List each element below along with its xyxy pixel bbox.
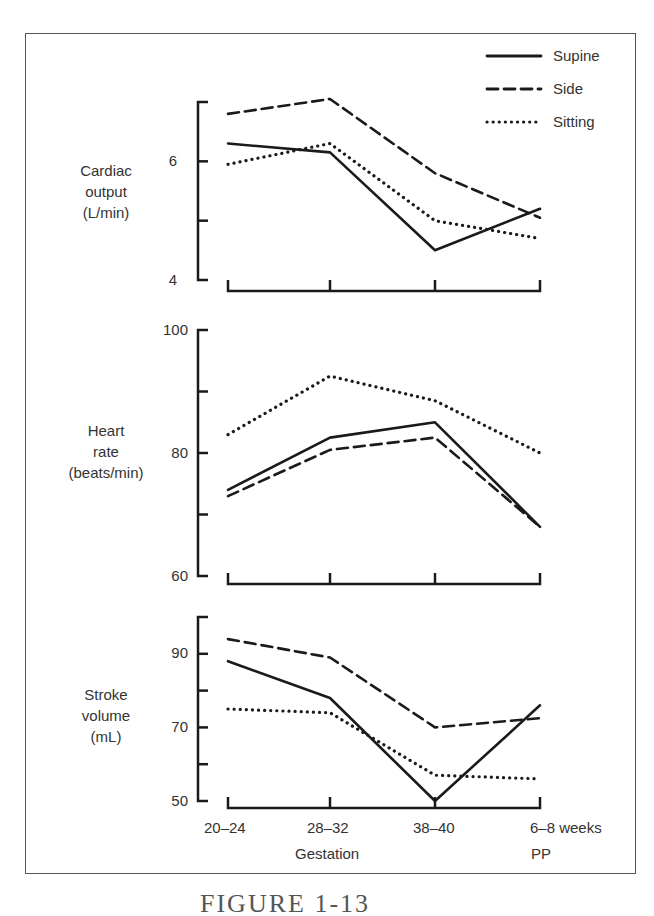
series-line-sitting <box>228 376 540 453</box>
x-axis <box>228 573 540 584</box>
y-axis-label-stroke-volume: Stroke volume (mL) <box>46 684 166 747</box>
y-tick-label: 90 <box>148 644 188 661</box>
y-tick-label: 80 <box>148 444 188 461</box>
x-axis <box>228 280 540 291</box>
x-tick-label: 38–40 <box>413 819 455 836</box>
legend-item-sitting: Sitting <box>553 113 595 130</box>
ylabel-line: Heart <box>46 420 166 441</box>
series-line-side <box>228 438 540 527</box>
series-line-supine <box>228 661 540 801</box>
y-tick-label: 50 <box>148 792 188 809</box>
x-tick-label: 28–32 <box>307 819 349 836</box>
y-tick-label: 100 <box>148 321 188 338</box>
x-axis-label-gestation: Gestation <box>295 845 359 862</box>
series-line-sitting <box>228 709 540 779</box>
figure-caption: FIGURE 1-13 <box>200 889 370 916</box>
y-tick-label: 4 <box>137 271 177 288</box>
y-tick-label: 70 <box>148 718 188 735</box>
legend-item-side: Side <box>553 80 583 97</box>
series-line-side <box>228 639 540 727</box>
y-tick-label: 60 <box>148 567 188 584</box>
series-line-side <box>228 99 540 218</box>
y-axis-label-cardiac-output: Cardiac output (L/min) <box>46 160 166 223</box>
ylabel-line: (beats/min) <box>46 462 166 483</box>
ylabel-line: output <box>46 181 166 202</box>
x-tick-label: 6–8 weeks <box>530 819 602 836</box>
y-axis <box>198 102 208 280</box>
ylabel-line: (L/min) <box>46 202 166 223</box>
y-axis <box>198 617 208 801</box>
series-line-sitting <box>228 144 540 239</box>
x-axis-label-pp: PP <box>531 845 551 862</box>
ylabel-line: Stroke <box>46 684 166 705</box>
x-tick-label: 20–24 <box>204 819 246 836</box>
x-axis <box>228 797 540 808</box>
legend-item-supine: Supine <box>553 47 600 64</box>
y-tick-label: 6 <box>137 152 177 169</box>
